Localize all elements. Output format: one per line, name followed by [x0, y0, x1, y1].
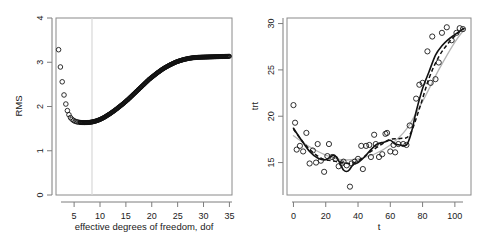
right-ytick-label: 30 — [266, 19, 276, 29]
right-y-ticks — [278, 24, 283, 163]
right-data-point — [301, 149, 306, 154]
right-x-axis — [292, 202, 463, 207]
right-ytick-label: 15 — [266, 158, 276, 168]
left-y-axis-label: RMS — [13, 95, 24, 116]
right-data-point — [326, 141, 331, 146]
right-y-axis-label: trt — [249, 101, 260, 110]
left-y-ticks — [47, 18, 52, 195]
right-data-point — [292, 120, 297, 125]
right-data-point — [457, 26, 462, 31]
right-xtick-label: 60 — [385, 211, 395, 221]
right-y-tick-labels: 15202530 — [266, 19, 276, 168]
right-data-point — [315, 141, 320, 146]
left-data-point — [62, 93, 67, 98]
left-plot-svg: 0 1 2 3 4 RMS 5101520253035 effective de… — [0, 0, 242, 244]
chart-panel-right: 15202530 trt 020406080100 t — [241, 0, 483, 244]
right-data-point — [414, 96, 419, 101]
right-data-point — [388, 149, 393, 154]
left-x-axis — [61, 202, 232, 207]
right-plot-svg: 15202530 trt 020406080100 t — [241, 0, 483, 244]
left-x-ticks — [74, 202, 229, 207]
right-data-point — [393, 150, 398, 155]
left-xtick-label: 30 — [199, 211, 209, 221]
left-xtick-label: 15 — [121, 211, 131, 221]
right-data-point — [336, 164, 341, 169]
right-data-point — [372, 132, 377, 137]
left-ytick-4: 4 — [35, 15, 45, 20]
right-data-point — [307, 161, 312, 166]
left-data-point — [64, 102, 69, 107]
left-x-axis-label: effective degrees of freedom, dof — [75, 221, 214, 232]
right-xtick-label: 80 — [418, 211, 428, 221]
right-data-point — [291, 103, 296, 108]
right-data-point — [425, 49, 430, 54]
right-data-point — [430, 34, 435, 39]
right-x-ticks — [293, 202, 454, 207]
left-y-axis: 0 1 2 3 4 — [35, 15, 52, 197]
right-xtick-label: 0 — [291, 211, 296, 221]
left-xtick-label: 20 — [147, 211, 157, 221]
left-xtick-label: 25 — [173, 211, 183, 221]
left-xtick-label: 10 — [95, 211, 105, 221]
chart-panel-left: 0 1 2 3 4 RMS 5101520253035 effective de… — [0, 0, 242, 244]
right-xtick-label: 100 — [447, 211, 462, 221]
left-x-tick-labels: 5101520253035 — [72, 211, 235, 221]
right-xtick-label: 20 — [321, 211, 331, 221]
right-data-point — [360, 166, 365, 171]
left-data-point — [60, 80, 65, 85]
right-data-point — [439, 30, 444, 35]
left-ytick-3: 3 — [35, 60, 45, 65]
left-xtick-label: 35 — [224, 211, 234, 221]
right-x-axis-label: t — [378, 221, 381, 232]
left-ytick-1: 1 — [35, 148, 45, 153]
right-ytick-label: 25 — [266, 65, 276, 75]
left-ytick-2: 2 — [35, 104, 45, 109]
right-data-point — [347, 184, 352, 189]
right-data-point — [297, 143, 302, 148]
right-wiggly-smoother-curve — [293, 29, 462, 171]
left-xtick-label: 5 — [72, 211, 77, 221]
right-data-point — [380, 152, 385, 157]
right-x-tick-labels: 020406080100 — [291, 211, 462, 221]
left-ytick-0: 0 — [35, 192, 45, 197]
left-data-point — [58, 65, 63, 70]
right-data-point — [436, 60, 441, 65]
figure-root: 0 1 2 3 4 RMS 5101520253035 effective de… — [0, 0, 483, 244]
right-data-point — [304, 130, 309, 135]
right-ytick-label: 20 — [266, 111, 276, 121]
left-plot-frame — [56, 18, 232, 195]
right-data-point — [322, 169, 327, 174]
left-data-points — [56, 47, 231, 124]
right-xtick-label: 40 — [353, 211, 363, 221]
right-data-point — [376, 154, 381, 159]
right-data-point — [444, 25, 449, 30]
right-y-axis — [278, 18, 283, 195]
right-data-point — [367, 142, 372, 147]
right-data-point — [384, 130, 389, 135]
left-data-point — [56, 47, 61, 52]
